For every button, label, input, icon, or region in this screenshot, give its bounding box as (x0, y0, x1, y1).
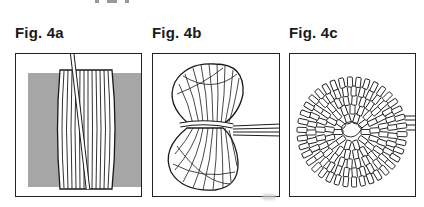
scan-smudge (262, 194, 276, 200)
figure-label-4b: Fig. 4b (152, 24, 202, 41)
figure-label-4a: Fig. 4a (15, 24, 64, 41)
figure-4a-panel (15, 53, 142, 197)
figure-4b-panel (152, 53, 280, 197)
cropped-text-fragment (95, 0, 135, 4)
pompom-illustration (290, 54, 416, 197)
figure-4c-panel (289, 53, 416, 197)
tied-yarn-bundle-illustration (153, 54, 280, 197)
yarn-on-cardboard-illustration (16, 54, 142, 197)
figure-label-4c: Fig. 4c (289, 24, 338, 41)
